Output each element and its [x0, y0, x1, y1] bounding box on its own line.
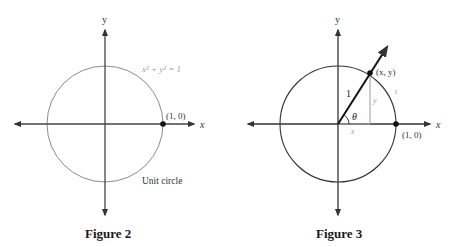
terminal-ray: [338, 47, 387, 124]
figure-3-caption: Figure 3: [316, 226, 362, 242]
y-axis-label: y: [335, 14, 340, 25]
y-axis-label: y: [102, 14, 107, 25]
point-x-y-label: (x, y): [376, 67, 396, 77]
point-1-0-label: (1, 0): [402, 130, 422, 140]
figure-3: y x (x, y) (1, 0) 1 θ x y t: [248, 14, 441, 215]
point-1-0-label: (1, 0): [166, 111, 186, 121]
equation-label: x² + y² = 1: [141, 64, 181, 74]
leg-y-label: y: [372, 96, 377, 105]
unit-circle-label: Unit circle: [142, 176, 182, 186]
point-1-0: [160, 121, 166, 127]
diagram-canvas: y x x² + y² = 1 (1, 0) Unit circle y x (…: [0, 0, 456, 247]
x-axis-label: x: [435, 119, 441, 130]
leg-x-label: x: [350, 127, 355, 136]
arc-length-label: t: [395, 87, 398, 96]
point-x-y: [367, 70, 373, 76]
angle-arc: [344, 115, 349, 124]
point-1-0: [393, 121, 399, 127]
angle-label: θ: [352, 111, 357, 122]
radius-label: 1: [346, 88, 351, 99]
x-axis-label: x: [199, 119, 205, 130]
figure-2: y x x² + y² = 1 (1, 0) Unit circle: [15, 14, 205, 215]
figure-2-caption: Figure 2: [85, 226, 131, 242]
